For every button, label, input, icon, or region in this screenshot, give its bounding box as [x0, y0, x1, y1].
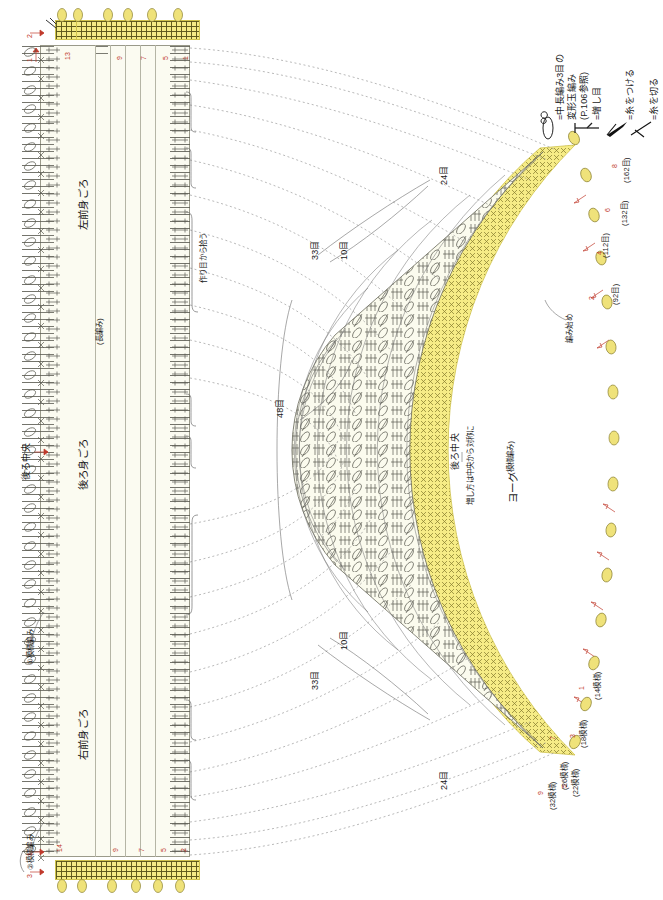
- label-yoke-title: ヨーク: [508, 472, 519, 503]
- label-body-back-center: 後ろ中央: [22, 443, 31, 480]
- edge-number-bottom-5: 5: [160, 848, 167, 852]
- label-pattern-note-1: ①模様編み: [27, 629, 35, 665]
- cut-yarn-icon: [631, 122, 651, 137]
- label-24-top: 24目: [440, 165, 449, 185]
- row-number-bottom-3: 3: [26, 874, 33, 878]
- increase-icon: [575, 123, 599, 133]
- label-back-body: 後ろ身ごろ: [78, 439, 89, 490]
- row-number-top-1: 1: [26, 58, 33, 62]
- edge-number-bottom-14: 14: [56, 844, 63, 852]
- label-48: 48目: [276, 398, 285, 418]
- yoke-row-number-8: 8: [611, 164, 618, 168]
- legend-increase-label: =増し目: [593, 87, 602, 120]
- pattern-sheet: 左前身ごろ (長編み) 後ろ身ごろ 右前身ごろ 後ろ中央 ①模様編み ②模様編み…: [0, 0, 663, 900]
- edge-number-bottom-9: 9: [112, 848, 119, 852]
- label-left-front-body: 左前身ごろ: [78, 179, 89, 230]
- label-left-front-note: (長編み): [96, 318, 104, 345]
- yoke-row-number-7: 7: [549, 736, 556, 740]
- label-33-top: 33目: [311, 240, 320, 260]
- legend-join-label: =糸をつける: [626, 69, 635, 120]
- label-10-bottom: 10目: [340, 630, 349, 650]
- yoke-row-number-6: 6: [604, 208, 611, 212]
- yoke-row-number-2: 2: [588, 296, 595, 300]
- legend-puff-line1: =中長編み3目の: [556, 54, 565, 120]
- yoke-row-count-22: (22模様): [572, 768, 580, 797]
- yoke-row-number-9: 9: [537, 791, 544, 795]
- legend-cut-label: =糸を切る: [650, 78, 659, 120]
- yoke-row-count-162: (162目): [623, 157, 631, 183]
- yoke-row-count-18: (18模様): [580, 719, 588, 748]
- label-33-bottom: 33目: [311, 670, 320, 690]
- edge-number-top-9: 9: [116, 56, 123, 60]
- legend-puff-line2: 変形玉編み: [568, 74, 577, 120]
- label-yoke-note: (模様編み): [507, 441, 515, 475]
- label-yoke-back-center: 後ろ中央: [451, 433, 460, 470]
- label-24-bottom: 24目: [440, 770, 449, 790]
- edge-number-top-7: 7: [140, 56, 147, 60]
- legend-puff-line3: (P.106参照): [580, 72, 589, 120]
- edge-number-top-1: 1: [182, 56, 189, 60]
- yoke-row-count-32: (32模様): [549, 781, 557, 810]
- yoke-row-number-3: 3: [569, 734, 576, 738]
- yoke-row-number-1: 1: [578, 686, 585, 690]
- label-pickup-note: 作り目から拾う: [200, 233, 208, 283]
- label-start-knitting: 編み始め: [566, 314, 574, 343]
- edge-number-top-5: 5: [162, 56, 169, 60]
- label-right-front-body: 右前身ごろ: [78, 709, 89, 760]
- puff-stitch-icon: [541, 112, 553, 139]
- row-number-top-2: 2: [26, 34, 33, 38]
- yoke-row-count-14: (14模様): [594, 671, 602, 700]
- yoke-row-count-26: (26模様): [561, 761, 569, 790]
- yoke-row-count-112: (112目): [602, 233, 610, 258]
- legend-block: =中長編み3目の 変形玉編み (P.106参照) =増し目 =糸をつける =糸を…: [530, 20, 660, 160]
- edge-number-bottom-2: 2: [180, 848, 187, 852]
- row-number-bottom-1: 1: [26, 852, 33, 856]
- yoke-row-count-92: (92目): [612, 284, 620, 305]
- join-yarn-icon: [607, 122, 627, 137]
- edge-number-top-13: 13: [64, 52, 71, 60]
- label-10-top: 10目: [340, 240, 349, 260]
- yoke-row-count-132: (132目): [621, 200, 629, 226]
- label-yoke-center-note: 増し方は中央から対称に: [467, 426, 475, 505]
- edge-number-bottom-7: 7: [138, 848, 145, 852]
